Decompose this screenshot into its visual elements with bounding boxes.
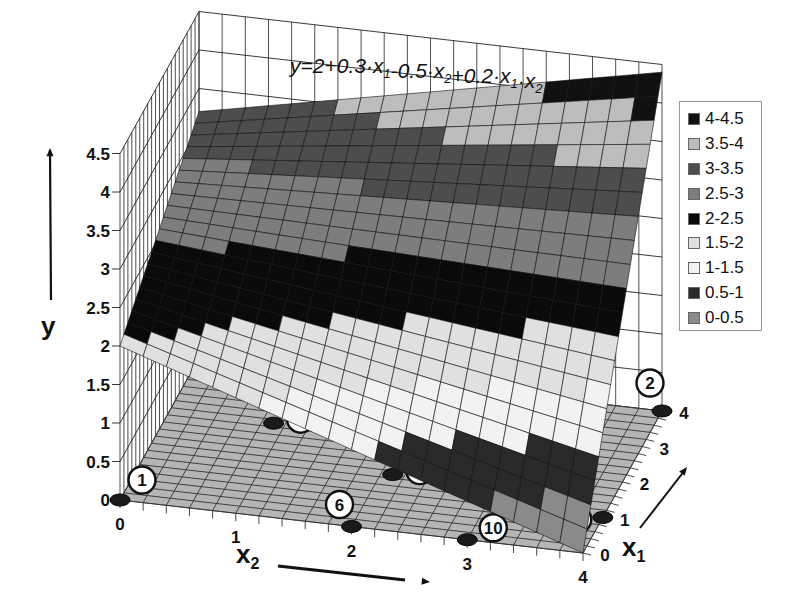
legend-label: 1-1.5 bbox=[705, 258, 744, 278]
design-point-marker bbox=[457, 534, 477, 546]
x2-tick-label: 4 bbox=[578, 568, 588, 587]
x2-tick-label: 2 bbox=[347, 542, 356, 561]
design-point-label: 1 bbox=[137, 471, 146, 490]
legend-swatch bbox=[688, 138, 700, 150]
design-point-label: 2 bbox=[645, 374, 654, 393]
y-axis-title: y bbox=[41, 311, 56, 341]
legend-item: 0.5-1 bbox=[688, 281, 761, 306]
legend-label: 3-3.5 bbox=[705, 159, 744, 179]
legend-swatch bbox=[688, 213, 700, 225]
legend-label: 0-0.5 bbox=[705, 308, 744, 328]
legend-item: 0-0.5 bbox=[688, 305, 761, 330]
y-tick-label: 3 bbox=[101, 260, 110, 279]
legend-item: 1-1.5 bbox=[688, 256, 761, 281]
design-point-marker bbox=[342, 521, 362, 533]
y-tick-label: 4.5 bbox=[86, 145, 110, 164]
legend-item: 3.5-4 bbox=[688, 132, 761, 157]
x1-tick-label: 0 bbox=[600, 546, 609, 565]
legend-swatch bbox=[688, 188, 700, 200]
legend-label: 3.5-4 bbox=[705, 134, 744, 154]
legend-label: 0.5-1 bbox=[705, 283, 744, 303]
legend-item: 1.5-2 bbox=[688, 231, 761, 256]
legend-swatch bbox=[688, 163, 700, 175]
y-tick-label: 4 bbox=[101, 183, 111, 202]
legend-label: 2.5-3 bbox=[705, 184, 744, 204]
x1-tick-label: 3 bbox=[660, 440, 669, 459]
y-tick-label: 0.5 bbox=[86, 453, 110, 472]
legend-item: 4-4.5 bbox=[688, 107, 761, 132]
legend-swatch bbox=[688, 113, 700, 125]
legend: 4-4.53.5-43-3.52.5-32-2.51.5-21-1.50.5-1… bbox=[679, 101, 762, 331]
y-tick-label: 0 bbox=[101, 491, 110, 510]
legend-swatch bbox=[688, 237, 700, 249]
x2-tick-label: 0 bbox=[115, 515, 124, 534]
y-tick-label: 2.5 bbox=[86, 299, 110, 318]
x1-tick-label: 4 bbox=[679, 404, 689, 423]
design-point-marker bbox=[652, 405, 672, 417]
design-point-label: 10 bbox=[484, 519, 503, 538]
y-tick-label: 1 bbox=[101, 414, 110, 433]
legend-swatch bbox=[688, 287, 700, 299]
legend-item: 2-2.5 bbox=[688, 206, 761, 231]
x2-tick-label: 3 bbox=[463, 555, 472, 574]
legend-label: 4-4.5 bbox=[705, 109, 744, 129]
legend-item: 2.5-3 bbox=[688, 181, 761, 206]
design-point-marker bbox=[264, 417, 284, 429]
design-point-marker bbox=[593, 512, 613, 524]
design-point-label: 6 bbox=[335, 496, 344, 515]
surface-chart: 12345678910 00.511.522.533.544.501234012… bbox=[0, 0, 791, 615]
x1-axis-title: x1 bbox=[622, 532, 645, 565]
x2-axis-title: x2 bbox=[236, 539, 259, 572]
legend-swatch bbox=[688, 262, 700, 274]
legend-label: 2-2.5 bbox=[705, 209, 744, 229]
legend-swatch bbox=[688, 312, 700, 324]
y-tick-label: 1.5 bbox=[86, 376, 110, 395]
x1-tick-label: 2 bbox=[640, 475, 649, 494]
y-tick-label: 3.5 bbox=[86, 222, 110, 241]
legend-label: 1.5-2 bbox=[705, 233, 744, 253]
x1-tick-label: 1 bbox=[620, 511, 629, 530]
y-tick-label: 2 bbox=[101, 337, 110, 356]
legend-item: 3-3.5 bbox=[688, 157, 761, 182]
